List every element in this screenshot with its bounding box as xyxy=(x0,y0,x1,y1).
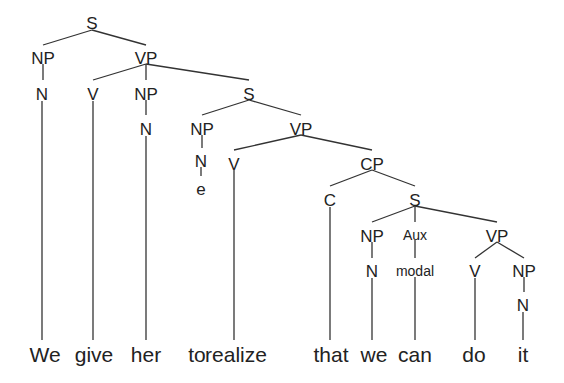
syntax-tree-diagram: SNPVPNVNPSNNPVPNVCPeCSNPAuxVPNmodalVNPN … xyxy=(0,0,564,383)
node-e1: e xyxy=(196,180,205,199)
node-cp1: CP xyxy=(360,155,384,174)
tree-branch xyxy=(249,100,301,115)
node-n1: N xyxy=(36,85,48,104)
node-n5: N xyxy=(517,296,529,315)
node-s2: S xyxy=(409,191,420,210)
node-vp1: VP xyxy=(135,49,158,68)
word-it: it xyxy=(518,343,529,366)
tree-branch xyxy=(92,30,146,45)
node-np1: NP xyxy=(31,49,55,68)
node-v1: V xyxy=(87,85,99,104)
node-vp3: VP xyxy=(486,227,509,246)
word-we: we xyxy=(360,343,388,366)
node-n4: N xyxy=(366,262,378,281)
node-np4: NP xyxy=(360,227,384,246)
node-v2: V xyxy=(228,155,240,174)
word-do: do xyxy=(462,343,485,366)
word-her: her xyxy=(131,343,161,366)
node-s1: S xyxy=(243,85,254,104)
node-np5: NP xyxy=(512,262,536,281)
node-n2: N xyxy=(140,120,152,139)
tree-edges xyxy=(42,30,524,340)
word-give: give xyxy=(75,343,114,366)
word-realize: realize xyxy=(205,343,267,366)
sentence-words: Wegivehertorealizethatwecandoit xyxy=(29,343,528,366)
word-that: that xyxy=(313,343,348,366)
node-np2: NP xyxy=(134,85,158,104)
node-vp2: VP xyxy=(290,120,313,139)
tree-branch xyxy=(43,30,92,45)
tree-nodes: SNPVPNVNPSNNPVPNVCPeCSNPAuxVPNmodalVNPN xyxy=(31,14,536,315)
tree-branch xyxy=(202,100,249,115)
node-np3: NP xyxy=(190,120,214,139)
node-modal1: modal xyxy=(396,263,434,279)
node-n3: N xyxy=(195,152,207,171)
word-can: can xyxy=(398,343,432,366)
node-aux1: Aux xyxy=(403,227,427,243)
node-c1: C xyxy=(324,191,336,210)
node-v3: V xyxy=(469,262,481,281)
node-s0: S xyxy=(86,14,97,33)
word-to: to xyxy=(188,343,206,366)
tree-branch xyxy=(146,64,249,80)
tree-branch xyxy=(415,206,497,222)
word-we: We xyxy=(29,343,60,366)
